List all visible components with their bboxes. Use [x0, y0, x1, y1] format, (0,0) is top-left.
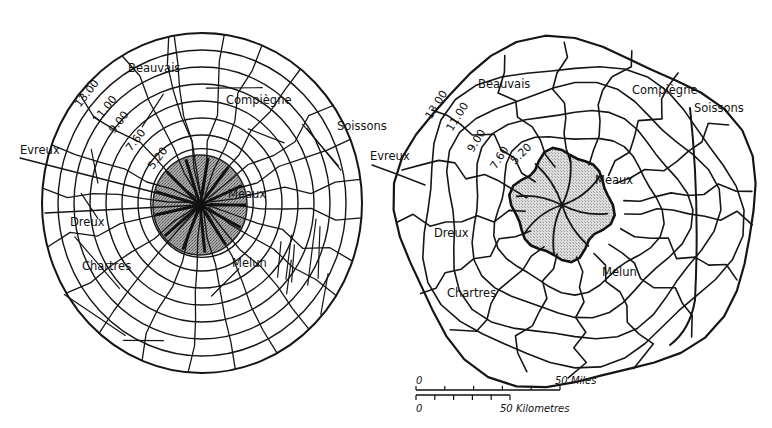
scale-miles-end-label: 50 Miles: [555, 375, 596, 386]
eastern-edge-road: [670, 108, 697, 345]
town-beauvais-right: Beauvais: [478, 77, 530, 91]
town-melun: Melun: [232, 256, 267, 270]
town-beauvais: Beauvais: [128, 61, 180, 75]
connector-road: [318, 227, 320, 279]
road: [553, 42, 571, 163]
road: [625, 209, 753, 225]
town-dreux-right: Dreux: [434, 226, 469, 240]
map-figure: 13.00 11.00 9.00 7.60 5.20 Beauvais Comp…: [0, 0, 772, 428]
scale-km-start-label: 0: [416, 403, 422, 414]
connector-road: [286, 235, 292, 279]
road: [402, 160, 527, 197]
scale-bar: 0 50 Miles 0 50 Kilometres: [416, 375, 596, 414]
town-chartres-right: Chartres: [447, 286, 496, 300]
town-meaux: Meaux: [228, 187, 266, 201]
left-ring-label-5-2: 5.20: [145, 145, 170, 172]
town-chartres: Chartres: [82, 259, 131, 273]
town-compiegne-right: Compiègne: [632, 83, 698, 97]
connector-road: [212, 269, 239, 296]
town-dreux: Dreux: [70, 215, 105, 229]
right-road-network-map: 13.00 11.00 9.00 7.60 5.20 Beauvais Comp…: [370, 36, 756, 387]
left-ring-label-7-6: 7.60: [123, 127, 148, 154]
town-compiegne: Compiègne: [226, 93, 292, 107]
town-soissons-right: Soissons: [694, 101, 744, 115]
town-soissons: Soissons: [337, 119, 387, 133]
right-ring-label-13: 13.00: [423, 88, 451, 122]
right-ring-label-11: 11.00: [444, 100, 472, 134]
left-concentric-map: 13.00 11.00 9.00 7.60 5.20 Beauvais Comp…: [20, 33, 387, 373]
figure: 13.00 11.00 9.00 7.60 5.20 Beauvais Comp…: [0, 0, 772, 428]
scale-miles-start-label: 0: [416, 375, 422, 386]
connector-road: [278, 242, 281, 278]
town-melun-right: Melun: [602, 265, 637, 279]
town-evreux-right: Evreux: [370, 149, 410, 163]
right-ring-label-5-2: 5.20: [508, 141, 535, 168]
connector-road: [248, 129, 284, 143]
connector-road: [292, 245, 295, 282]
scale-km-end-label: 50 Kilometres: [500, 403, 569, 414]
town-meaux-right: Meaux: [595, 173, 633, 187]
connector-road: [206, 88, 262, 89]
scale-bar-kilometres: [416, 395, 510, 400]
town-evreux: Evreux: [20, 143, 60, 157]
road: [398, 210, 526, 226]
